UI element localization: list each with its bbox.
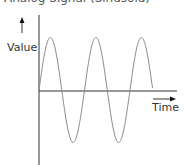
sine-wave-diagram xyxy=(0,0,188,165)
x-axis-label: Time xyxy=(152,101,179,114)
y-axis-label: Value xyxy=(7,41,37,54)
up-arrow-icon xyxy=(20,17,25,33)
sine-wave xyxy=(39,38,153,143)
